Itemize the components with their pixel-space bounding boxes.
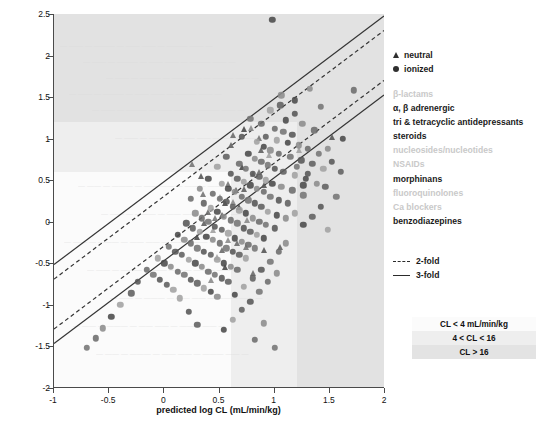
data-point-neutral (241, 126, 247, 132)
legend-class-item: steroids (393, 129, 549, 143)
data-point-neutral (248, 125, 254, 131)
dashed-line-icon (393, 261, 410, 262)
reference-line (54, 80, 384, 329)
drug-class-legend: β-lactamsα, β adrenergictri & tetracycli… (393, 87, 549, 228)
y-tick (48, 139, 53, 140)
cl-band-row: CL < 4 mL/min/kg (412, 317, 536, 331)
data-point-neutral (198, 173, 204, 179)
cl-band-row: CL > 16 (412, 345, 536, 359)
legend-class-item: morphinans (393, 172, 549, 186)
x-tick-label: 2 (382, 395, 387, 405)
fold-line-legend: 2-fold 3-fold (393, 254, 533, 282)
cl-band-row: 4 < CL < 16 (412, 331, 536, 345)
x-tick-label: -0.5 (101, 395, 116, 405)
legend-class-item: benzodiazepines (393, 214, 549, 228)
legend-class-item: α, β adrenergic (393, 101, 549, 115)
legend-item-neutral: neutral (393, 48, 549, 62)
y-tick (48, 346, 53, 347)
y-tick (48, 14, 53, 15)
y-tick (48, 97, 53, 98)
x-tick-label: 1 (271, 395, 276, 405)
plot-area: — —— — ——— — —— —— — ——— —— —— —— — ——— … (53, 14, 384, 388)
data-point-neutral (208, 277, 214, 283)
data-point-neutral (266, 152, 272, 158)
x-axis-title: predicted log CL (mL/min/kg) (53, 405, 384, 415)
y-tick (48, 180, 53, 181)
data-point-neutral (212, 215, 218, 221)
legend-label-neutral: neutral (404, 50, 433, 60)
data-point-neutral (230, 132, 236, 138)
data-point-neutral (225, 237, 231, 243)
data-point-neutral (261, 182, 267, 188)
legend-class-item: NSAIDs (393, 157, 549, 171)
x-tick-label: 0.5 (213, 395, 225, 405)
x-tick (384, 388, 385, 393)
data-point-neutral (241, 186, 247, 192)
legend-class-item: fluoroquinolones (393, 186, 549, 200)
data-point-neutral (228, 142, 234, 148)
y-tick (48, 305, 53, 306)
cl-band-legend: CL < 4 mL/min/kg4 < CL < 16CL > 16 (412, 317, 536, 359)
data-point-neutral (296, 147, 302, 153)
solid-line-icon (393, 275, 410, 276)
data-point-neutral (200, 191, 206, 197)
data-point-neutral (329, 134, 335, 140)
scatter-plot: — —— — ——— — —— —— — ——— —— —— —— — ——— … (53, 14, 384, 388)
fold-item-3: 3-fold (393, 268, 533, 282)
data-point-neutral (194, 234, 200, 240)
x-tick-label: 0 (161, 395, 166, 405)
y-tick (48, 263, 53, 264)
x-axis-tick-labels: -1-0.500.511.52 (53, 392, 384, 406)
reference-line (54, 95, 384, 344)
legend-class-item: tri & tetracyclic antidepressants (393, 115, 549, 129)
legend-item-ionized: ionized (393, 62, 549, 76)
legend-class-item: Ca blockers (393, 200, 549, 214)
x-tick-label: -1 (49, 395, 57, 405)
marker-legend: neutral ionized β-lactamsα, β adrenergic… (393, 48, 549, 228)
circle-marker-icon (393, 66, 399, 72)
fold-label-2: 2-fold (416, 256, 439, 266)
x-tick-label: 1.5 (323, 395, 335, 405)
y-axis-tick-labels: -2-1.5-1-0.500.511.522.5 (26, 14, 50, 388)
legend-class-item: β-lactams (393, 87, 549, 101)
data-point-neutral (189, 161, 195, 167)
fold-item-2: 2-fold (393, 254, 533, 268)
legend-class-item: nucleosides/nucleotides (393, 143, 549, 157)
y-tick (48, 222, 53, 223)
legend-label-ionized: ionized (404, 64, 434, 74)
y-tick (48, 56, 53, 57)
data-point-neutral (261, 247, 267, 253)
fold-label-3: 3-fold (416, 270, 439, 280)
triangle-marker-icon (393, 52, 399, 58)
